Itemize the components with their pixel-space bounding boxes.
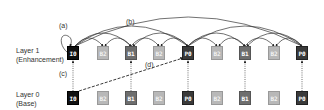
l0-frame-5: B2	[211, 91, 223, 105]
annotation-a: (a)	[59, 22, 68, 29]
l1-frame-4: P0	[182, 46, 194, 60]
l1-frame-2: B1	[125, 46, 137, 60]
layer1-name: Layer 1	[16, 46, 64, 55]
l1-frame-1: B2	[97, 46, 109, 60]
l1-frame-0: I0	[67, 46, 79, 60]
layer1-label: Layer 1 (Enhancement)	[16, 46, 64, 64]
l1-frame-3: B2	[153, 46, 165, 60]
l0-frame-2: B1	[125, 91, 137, 105]
l0-frame-8: P0	[296, 91, 308, 105]
layer0-label: Layer 0 (Base)	[16, 90, 39, 108]
annotation-d: (d)	[145, 61, 154, 68]
l1-frame-7: B2	[268, 46, 280, 60]
l0-frame-6: B1	[239, 91, 251, 105]
annotation-c: (c)	[59, 70, 67, 77]
layer1-sub: (Enhancement)	[16, 55, 64, 64]
l0-frame-3: B2	[153, 91, 165, 105]
layer0-sub: (Base)	[16, 99, 39, 108]
l0-frame-0: I0	[67, 91, 79, 105]
layer0-name: Layer 0	[16, 90, 39, 99]
l1-frame-8: P0	[296, 46, 308, 60]
l0-frame-4: P0	[182, 91, 194, 105]
l1-frame-5: B2	[211, 46, 223, 60]
annotation-b: (b)	[126, 18, 135, 25]
l0-frame-1: B2	[97, 91, 109, 105]
l1-frame-6: B1	[239, 46, 251, 60]
l0-frame-7: B2	[268, 91, 280, 105]
